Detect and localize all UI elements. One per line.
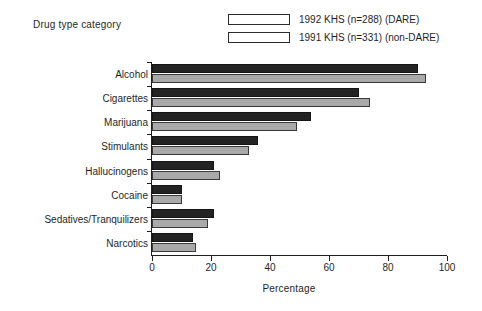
y-axis-tick bbox=[147, 183, 152, 184]
category-label-cocaine: Cocaine bbox=[111, 190, 148, 201]
chart-legend: 1992 KHS (n=288) (DARE) 1991 KHS (n=331)… bbox=[228, 12, 439, 48]
x-axis-tick-label-80: 80 bbox=[382, 262, 393, 273]
bar-sedatives-tranquilizers-series-0 bbox=[152, 209, 214, 218]
bar-cigarettes-series-0 bbox=[152, 88, 359, 97]
legend-item-series-1: 1991 KHS (n=331) (non-DARE) bbox=[228, 30, 439, 45]
category-axis-labels: AlcoholCigarettesMarijuanaStimulantsHall… bbox=[0, 0, 148, 311]
bar-stimulants-series-0 bbox=[152, 136, 258, 145]
x-axis-tick-label-60: 60 bbox=[323, 262, 334, 273]
legend-label-series-0: 1992 KHS (n=288) (DARE) bbox=[299, 14, 419, 25]
bar-alcohol-series-0 bbox=[152, 64, 418, 73]
category-label-hallucinogens: Hallucinogens bbox=[85, 166, 148, 177]
x-axis-tick-20 bbox=[211, 256, 212, 261]
bar-cocaine-series-0 bbox=[152, 185, 182, 194]
x-axis-line bbox=[151, 255, 447, 256]
y-axis-tick bbox=[147, 231, 152, 232]
bar-marijuana-series-0 bbox=[152, 112, 311, 121]
bar-sedatives-tranquilizers-series-1 bbox=[152, 219, 208, 228]
legend-label-series-1: 1991 KHS (n=331) (non-DARE) bbox=[299, 32, 439, 43]
y-axis-tick bbox=[147, 159, 152, 160]
x-axis-tick-label-40: 40 bbox=[264, 262, 275, 273]
plot-area bbox=[152, 62, 447, 255]
legend-item-series-0: 1992 KHS (n=288) (DARE) bbox=[228, 12, 439, 27]
bar-cigarettes-series-1 bbox=[152, 98, 370, 107]
y-axis-tick bbox=[147, 207, 152, 208]
x-axis-title: Percentage bbox=[0, 283, 482, 294]
bar-marijuana-series-1 bbox=[152, 122, 297, 131]
x-axis-tick-40 bbox=[270, 256, 271, 261]
bar-stimulants-series-1 bbox=[152, 146, 249, 155]
y-axis-tick bbox=[147, 134, 152, 135]
legend-swatch-series-1 bbox=[228, 32, 290, 43]
legend-swatch-series-0 bbox=[228, 14, 290, 25]
x-axis-tick-80 bbox=[388, 256, 389, 261]
x-axis-tick-label-100: 100 bbox=[439, 262, 456, 273]
y-axis-tick bbox=[147, 62, 152, 63]
category-label-alcohol: Alcohol bbox=[115, 69, 148, 80]
bar-hallucinogens-series-1 bbox=[152, 171, 220, 180]
y-axis-tick bbox=[147, 86, 152, 87]
bar-narcotics-series-0 bbox=[152, 233, 193, 242]
x-axis-tick-0 bbox=[152, 256, 153, 261]
category-label-cigarettes: Cigarettes bbox=[102, 93, 148, 104]
x-axis-title-text: Percentage bbox=[262, 283, 315, 294]
bar-chart-figure: Drug type category 1992 KHS (n=288) (DAR… bbox=[0, 0, 482, 311]
x-axis-tick-label-20: 20 bbox=[205, 262, 216, 273]
bar-hallucinogens-series-0 bbox=[152, 161, 214, 170]
category-label-stimulants: Stimulants bbox=[101, 141, 148, 152]
x-axis-tick-100 bbox=[447, 256, 448, 261]
bar-narcotics-series-1 bbox=[152, 243, 196, 252]
x-axis-tick-label-0: 0 bbox=[149, 262, 155, 273]
x-axis-tick-60 bbox=[329, 256, 330, 261]
category-label-narcotics: Narcotics bbox=[106, 238, 148, 249]
category-label-sedatives-tranquilizers: Sedatives/Tranquilizers bbox=[44, 214, 148, 225]
bar-cocaine-series-1 bbox=[152, 195, 182, 204]
bar-alcohol-series-1 bbox=[152, 74, 426, 83]
category-label-marijuana: Marijuana bbox=[104, 117, 148, 128]
y-axis-tick bbox=[147, 110, 152, 111]
